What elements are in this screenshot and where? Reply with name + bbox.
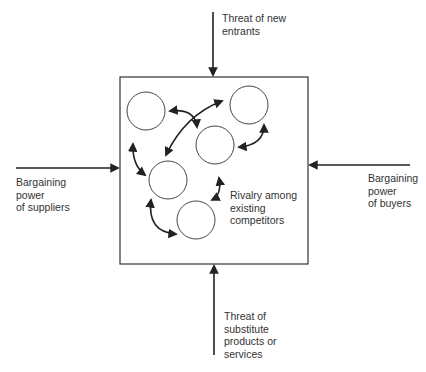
competitor-circle-3	[196, 126, 234, 164]
competitor-circle-1	[127, 92, 165, 130]
label-threat-substitutes: Threat of substitute products or service…	[224, 310, 277, 360]
label-threat-new-entrants: Threat of new entrants	[222, 12, 286, 37]
label-buyer-power: Bargaining power of buyers	[368, 172, 418, 210]
competitor-circle-4	[149, 161, 187, 199]
label-rivalry: Rivalry among existing competitors	[230, 189, 297, 227]
competitor-circle-5	[177, 201, 215, 239]
label-supplier-power: Bargaining power of suppliers	[16, 176, 70, 214]
competitor-circle-2	[230, 86, 268, 124]
